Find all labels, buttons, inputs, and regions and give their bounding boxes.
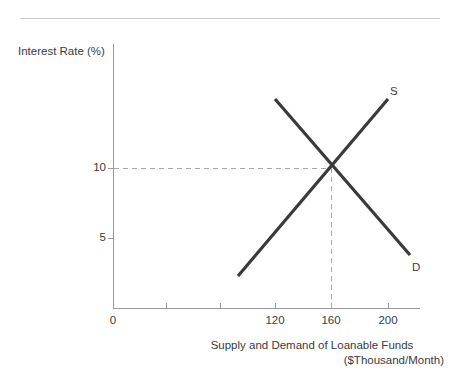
supply-curve: [238, 99, 388, 276]
x-tick-label-0: 0: [93, 314, 133, 327]
y-axis-title: Interest Rate (%): [18, 45, 105, 58]
demand-curve-label: D: [412, 261, 420, 274]
y-tick-label-10: 10: [76, 161, 106, 174]
chart-canvas: Interest Rate (%) 10 5 0 120 160 200 S D…: [0, 0, 457, 386]
x-tick-label-200: 200: [368, 314, 408, 327]
x-axis-title: Supply and Demand of Loanable Funds ($Th…: [180, 338, 444, 368]
x-tick-label-160: 160: [311, 314, 351, 327]
demand-curve: [275, 99, 410, 255]
y-tick-label-5: 5: [76, 231, 106, 244]
x-axis-title-line2: ($Thousand/Month): [180, 353, 444, 368]
supply-curve-label: S: [390, 85, 398, 98]
x-tick-label-120: 120: [255, 314, 295, 327]
x-axis-title-line1: Supply and Demand of Loanable Funds: [211, 339, 414, 351]
